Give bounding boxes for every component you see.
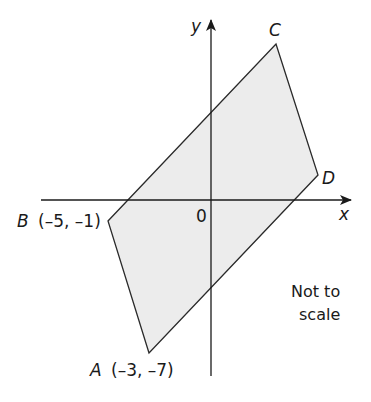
vertex-b-label: B (–5, –1) bbox=[17, 211, 101, 231]
vertex-a-coords: (–3, –7) bbox=[111, 360, 174, 380]
note-line-2: scale bbox=[299, 305, 340, 324]
vertex-b-name: B bbox=[17, 211, 29, 231]
origin-label: 0 bbox=[196, 206, 207, 226]
vertex-a-label: A (–3, –7) bbox=[89, 360, 174, 380]
coordinate-diagram: y x 0 C D B (–5, –1) A (–3, –7) Not to s… bbox=[0, 0, 371, 402]
vertex-c-label: C bbox=[269, 20, 281, 40]
y-axis-label: y bbox=[190, 16, 202, 36]
parallelogram-abcd bbox=[108, 44, 318, 353]
x-axis-label: x bbox=[338, 204, 350, 224]
note-line-1: Not to bbox=[291, 282, 340, 301]
vertex-d-label: D bbox=[322, 168, 335, 188]
vertex-b-coords: (–5, –1) bbox=[38, 211, 101, 231]
vertex-a-name: A bbox=[89, 360, 102, 380]
